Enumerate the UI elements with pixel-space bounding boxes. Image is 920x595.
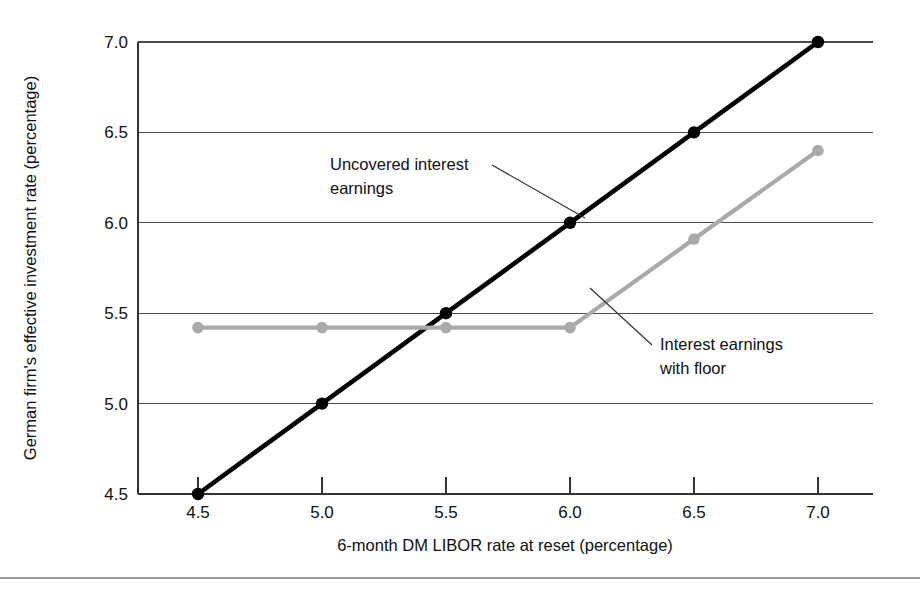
data-point-marker xyxy=(564,217,576,229)
y-tick-label-5.5: 5.5 xyxy=(104,304,128,323)
annotation-label: Uncovered interestearnings xyxy=(330,155,469,197)
annotation-leader-line xyxy=(492,165,585,218)
y-axis-title: German firm's effective investment rate … xyxy=(21,76,39,460)
series-line xyxy=(198,150,818,327)
data-point-marker xyxy=(316,322,328,334)
x-tick-label-2: 5.5 xyxy=(434,503,458,522)
data-point-marker xyxy=(564,322,576,334)
y-tick-label-6.5: 6.5 xyxy=(104,123,128,142)
data-series-layer xyxy=(192,36,824,500)
series-uncovered-interest-earnings xyxy=(192,36,824,500)
data-point-marker xyxy=(812,36,824,48)
data-point-marker xyxy=(688,233,700,245)
annotation-floor: Interest earningswith floor xyxy=(590,288,783,377)
x-tick-label-5: 7.0 xyxy=(806,503,830,522)
x-axis-title: 6-month DM LIBOR rate at reset (percenta… xyxy=(337,536,673,554)
y-axis-tick-labels: 4.5 5.0 5.5 6.0 6.5 7.0 xyxy=(104,33,128,504)
y-tick-label-7.0: 7.0 xyxy=(104,33,128,52)
investment-rate-line-chart: 4.5 5.0 5.5 6.0 6.5 7.0 4.5 5.0 5.5 6.0 … xyxy=(0,0,920,595)
x-axis-tick-labels: 4.5 5.0 5.5 6.0 6.5 7.0 xyxy=(186,503,830,522)
data-point-marker xyxy=(812,145,824,157)
annotation-layer: Uncovered interestearningsInterest earni… xyxy=(330,155,783,377)
data-point-marker xyxy=(316,397,328,409)
data-point-marker xyxy=(688,126,700,138)
series-line xyxy=(198,42,818,494)
series-interest-earnings-with-floor xyxy=(192,145,824,334)
x-tick-label-3: 6.0 xyxy=(558,503,582,522)
y-tick-label-6.0: 6.0 xyxy=(104,214,128,233)
x-tick-label-0: 4.5 xyxy=(186,503,210,522)
data-point-marker xyxy=(440,322,452,334)
annotation-label: Interest earningswith floor xyxy=(659,335,783,377)
annotation-leader-line xyxy=(590,288,652,345)
y-tick-label-5.0: 5.0 xyxy=(104,395,128,414)
data-point-marker xyxy=(440,307,452,319)
x-tick-label-4: 6.5 xyxy=(682,503,706,522)
y-tick-label-4.5: 4.5 xyxy=(104,485,128,504)
data-point-marker xyxy=(192,488,204,500)
chart-figure: 4.5 5.0 5.5 6.0 6.5 7.0 4.5 5.0 5.5 6.0 … xyxy=(0,0,920,595)
x-axis-tick-marks xyxy=(198,477,818,494)
data-point-marker xyxy=(192,322,204,334)
x-tick-label-1: 5.0 xyxy=(310,503,334,522)
annotation-uncovered: Uncovered interestearnings xyxy=(330,155,585,218)
